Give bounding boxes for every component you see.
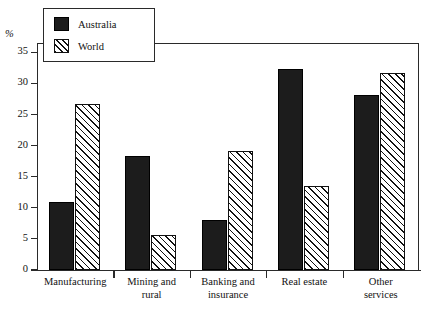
y-axis-tick-label: 0	[4, 264, 28, 275]
legend-label-world: World	[78, 41, 104, 52]
y-axis-tick-label: 10	[4, 202, 28, 213]
legend-item-world: World	[54, 38, 104, 54]
bar-australia	[125, 156, 150, 270]
y-axis-tick-label: 20	[4, 140, 28, 151]
legend-swatch-australia-icon	[54, 17, 69, 31]
legend-label-australia: Australia	[78, 19, 117, 30]
bar-chart: % 05101520253035 ManufacturingMining and…	[0, 0, 433, 315]
y-axis-tick-label: 15	[4, 171, 28, 182]
bar-australia	[354, 95, 379, 270]
bar-australia	[202, 220, 227, 270]
chart-legend: Australia World	[43, 8, 155, 62]
y-axis-unit-label: %	[5, 28, 14, 39]
y-axis-tick-label: 25	[4, 109, 28, 120]
bar-world	[151, 235, 176, 270]
bar-world	[75, 104, 100, 270]
bar-world	[380, 73, 405, 270]
bars-layer	[37, 43, 419, 270]
y-axis-tick-label: 35	[4, 46, 28, 57]
x-axis-category-labels: ManufacturingMining andruralBanking andi…	[37, 276, 419, 314]
bar-world	[228, 151, 253, 270]
y-axis-tick-label: 30	[4, 77, 28, 88]
bar-australia	[278, 69, 303, 271]
legend-swatch-world-icon	[54, 39, 69, 53]
bar-australia	[49, 202, 74, 270]
bar-world	[304, 186, 329, 270]
y-axis-tick-label: 5	[4, 233, 28, 244]
x-axis-category-label: Otherservices	[335, 276, 427, 301]
legend-item-australia: Australia	[54, 16, 117, 32]
